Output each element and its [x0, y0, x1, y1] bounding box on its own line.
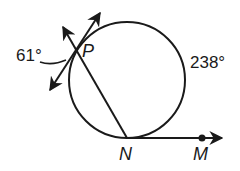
- angle-arc-61: [40, 60, 66, 64]
- secant-line-NP: [63, 27, 127, 138]
- geometry-diagram: 61° 238° P N M: [0, 0, 240, 171]
- point-label-P: P: [82, 41, 94, 61]
- arc-label-238: 238°: [190, 53, 225, 72]
- angle-label-61: 61°: [16, 46, 42, 65]
- circle: [69, 22, 185, 138]
- point-label-N: N: [119, 144, 133, 164]
- point-M-dot: [199, 135, 206, 142]
- point-label-M: M: [193, 144, 208, 164]
